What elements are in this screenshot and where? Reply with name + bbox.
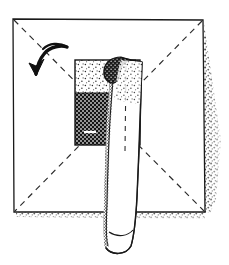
folded-strip — [104, 57, 142, 253]
fold-diagram-svg — [0, 0, 229, 265]
figure-root: Square sheet seen in perspective with da… — [0, 0, 229, 265]
right-edge-shadow — [204, 24, 221, 213]
